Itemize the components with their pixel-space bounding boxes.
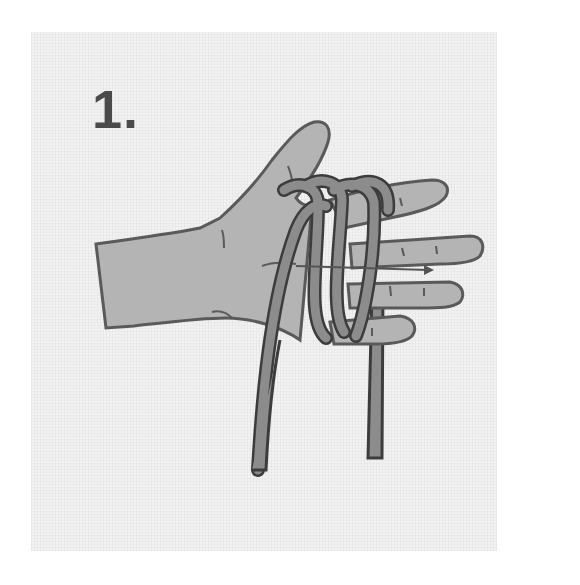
hand-rope-illustration [0,0,580,585]
fingers [330,180,483,344]
rope-right-end [368,290,383,458]
